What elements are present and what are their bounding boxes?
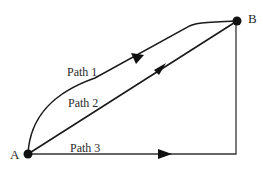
node-a-dot (24, 150, 33, 159)
path-3-label: Path 3 (70, 142, 100, 154)
node-b-dot (233, 17, 242, 26)
path-diagram (0, 0, 263, 169)
path-1-arrow-icon (131, 53, 144, 64)
node-b-label: B (248, 12, 257, 25)
path-2 (28, 21, 237, 154)
path-3-arrow-icon (158, 149, 172, 159)
node-a-label: A (10, 148, 19, 161)
path-2-label: Path 2 (68, 97, 98, 109)
path-1-label: Path 1 (67, 66, 97, 78)
